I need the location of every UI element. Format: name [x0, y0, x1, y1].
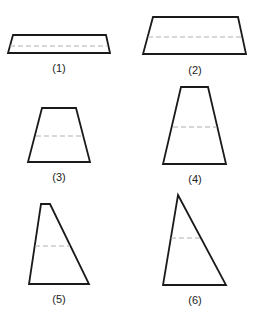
shape-label: (1): [52, 62, 65, 74]
shape-label: (3): [52, 171, 65, 183]
shape-outline: [29, 204, 89, 284]
shape-label: (6): [188, 294, 201, 306]
shape-outline: [28, 108, 90, 162]
shape-outline: [143, 17, 246, 54]
shape-outline: [8, 35, 110, 53]
shape-label: (4): [188, 173, 201, 185]
shape-6: [163, 195, 226, 285]
shape-3: [28, 108, 90, 162]
shape-5: [29, 204, 89, 284]
shape-4: [163, 87, 226, 164]
shape-outline: [163, 87, 226, 164]
shape-label: (2): [188, 64, 201, 76]
shape-outline: [163, 195, 226, 285]
shapes-canvas: [0, 0, 257, 316]
shape-1: [8, 35, 110, 53]
shape-label: (5): [52, 293, 65, 305]
shape-2: [143, 17, 246, 54]
